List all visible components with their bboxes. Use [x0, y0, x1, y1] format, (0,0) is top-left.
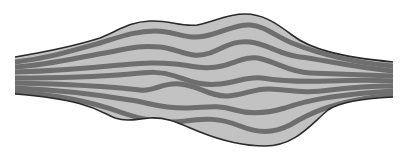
fiber-bundle-diagram: Spindle-shaped bundle with wavy fiber ba… [0, 0, 409, 156]
diagram-canvas [0, 0, 409, 156]
